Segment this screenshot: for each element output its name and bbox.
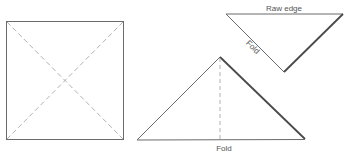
- inverted-triangle-figure: Raw edge Fold: [226, 4, 343, 72]
- triangle-base-fold: [137, 140, 305, 141]
- triangle-left-edge: [137, 57, 220, 140]
- raw-edge-label: Raw edge: [266, 4, 303, 13]
- folded-triangle-figure: Fold: [137, 57, 305, 153]
- triangle-right-edge: [220, 57, 305, 139]
- side-fold-label: Fold: [244, 39, 261, 56]
- inverted-right-edge: [284, 14, 343, 72]
- folding-diagram: Fold Raw edge Fold: [0, 0, 351, 159]
- square-figure: [7, 22, 124, 140]
- bottom-fold-label: Fold: [216, 144, 232, 153]
